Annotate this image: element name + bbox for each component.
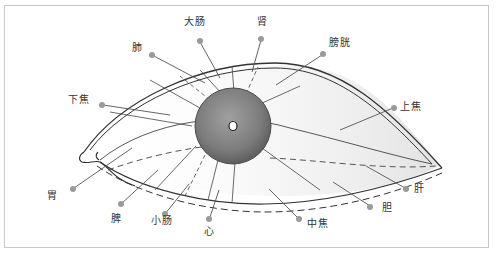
- eye-diagram: [0, 0, 496, 256]
- label-liver: 肝: [414, 183, 425, 195]
- label-stomach: 胃: [47, 190, 58, 202]
- label-kidney: 肾: [257, 16, 268, 28]
- label-gallbladder: 胆: [382, 202, 393, 214]
- label-heart: 心: [204, 226, 215, 238]
- iris: [195, 88, 271, 164]
- label-spleen: 脾: [111, 213, 122, 225]
- dot-kidney: [258, 36, 264, 42]
- label-lower-jiao: 下焦: [68, 94, 90, 106]
- label-lung: 肺: [132, 42, 143, 54]
- dot-liver: [403, 186, 409, 192]
- dot-spleen: [118, 201, 124, 207]
- label-upper-jiao: 上焦: [400, 101, 422, 113]
- label-small-intestine: 小肠: [151, 215, 173, 227]
- label-large-intestine: 大肠: [184, 16, 206, 28]
- dot-lower-jiao: [99, 102, 105, 108]
- dot-large-intestine: [197, 38, 203, 44]
- dot-lung: [149, 52, 155, 58]
- pupil-highlight: [229, 122, 237, 131]
- dot-heart: [206, 216, 212, 222]
- dot-middle-jiao: [296, 216, 302, 222]
- label-middle-jiao: 中焦: [307, 218, 329, 230]
- label-bladder: 膀胱: [329, 37, 351, 49]
- dot-stomach: [70, 186, 76, 192]
- dot-upper-jiao: [391, 105, 397, 111]
- dot-gallbladder: [367, 204, 373, 210]
- dot-bladder: [320, 51, 326, 57]
